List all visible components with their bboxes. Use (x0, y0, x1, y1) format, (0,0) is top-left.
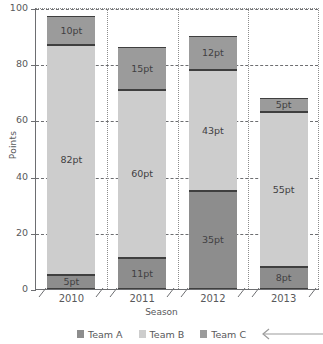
bar-segment[interactable]: 35pt (189, 191, 237, 289)
bar-segment[interactable]: 55pt (260, 112, 308, 267)
chart-legend: Team ATeam BTeam C (0, 326, 323, 342)
gridline-vertical (178, 9, 179, 289)
bar-segment-label: 5pt (63, 276, 79, 287)
bar-segment[interactable]: 5pt (260, 98, 308, 112)
stacked-bar-chart: Points 020406080100 5pt82pt10pt11pt60pt1… (0, 0, 323, 344)
bar-segment-label: 60pt (131, 168, 153, 179)
bar-segment[interactable]: 15pt (118, 47, 166, 89)
y-axis-tick-label: 20 (2, 228, 28, 238)
x-axis-line (35, 289, 319, 290)
plot-area: 5pt82pt10pt11pt60pt15pt35pt43pt12pt8pt55… (36, 8, 319, 289)
x-axis-title: Season (0, 307, 323, 317)
bar-group[interactable]: 5pt82pt10pt (47, 8, 95, 289)
legend-swatch-icon (77, 330, 84, 338)
y-axis-tick (31, 290, 36, 291)
y-axis-labels: 020406080100 (0, 0, 28, 344)
bar-segment[interactable]: 60pt (118, 90, 166, 259)
bar-segment-label: 43pt (202, 125, 224, 136)
axis-break-mark (95, 283, 104, 294)
gridline-vertical (248, 9, 249, 289)
bar-segment-label: 11pt (131, 268, 153, 279)
bar-group[interactable]: 35pt43pt12pt (189, 8, 237, 289)
bar-segment-label: 35pt (202, 234, 224, 245)
axis-break-mark (166, 283, 175, 294)
bar-segment[interactable]: 8pt (260, 267, 308, 289)
axis-break-mark (237, 283, 246, 294)
axis-break-mark (109, 283, 118, 294)
bar-segment-label: 55pt (273, 184, 295, 195)
legend-item-team-a[interactable]: Team A (77, 329, 123, 340)
y-axis-tick-label: 60 (2, 115, 28, 125)
bar-segment[interactable]: 11pt (118, 258, 166, 289)
legend-label: Team C (211, 329, 246, 340)
legend-label: Team B (150, 329, 185, 340)
legend-swatch-icon (200, 330, 207, 338)
y-axis-tick (31, 9, 36, 10)
bar-segment[interactable]: 5pt (47, 275, 95, 289)
legend-item-team-b[interactable]: Team B (139, 329, 185, 340)
gridline-vertical (107, 9, 108, 289)
axis-break-mark (308, 283, 317, 294)
legend-item-team-c[interactable]: Team C (200, 329, 246, 340)
bar-segment-label: 8pt (276, 272, 292, 283)
bar-segment-label: 5pt (276, 99, 292, 110)
bar-group[interactable]: 8pt55pt5pt (260, 8, 308, 289)
axis-break-mark (38, 283, 47, 294)
legend-label: Team A (88, 329, 123, 340)
axis-break-mark (251, 283, 260, 294)
y-axis-tick (31, 234, 36, 235)
y-axis-tick-label: 100 (2, 3, 28, 13)
bar-group[interactable]: 11pt60pt15pt (118, 8, 166, 289)
bar-segment[interactable]: 82pt (47, 45, 95, 275)
bar-segment-label: 15pt (131, 63, 153, 74)
bar-segment[interactable]: 10pt (47, 16, 95, 44)
legend-swatch-icon (139, 330, 146, 338)
y-axis-tick-label: 80 (2, 59, 28, 69)
y-axis-tick (31, 121, 36, 122)
bar-segment-label: 82pt (60, 154, 82, 165)
y-axis-tick (31, 65, 36, 66)
bar-segment[interactable]: 43pt (189, 70, 237, 191)
bar-segment-label: 10pt (60, 25, 82, 36)
bar-segment[interactable]: 12pt (189, 36, 237, 70)
y-axis-tick-label: 40 (2, 172, 28, 182)
bar-segment-label: 12pt (202, 47, 224, 58)
y-axis-tick-label: 0 (2, 284, 28, 294)
y-axis-tick (31, 178, 36, 179)
axis-break-mark (180, 283, 189, 294)
